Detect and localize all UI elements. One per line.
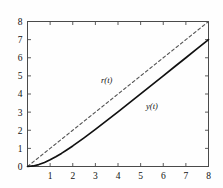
plot-svg: 012345678 12345678 r(t)y(t) bbox=[0, 0, 223, 188]
svg-text:7: 7 bbox=[184, 171, 189, 181]
svg-text:y(t): y(t) bbox=[145, 101, 158, 111]
svg-text:4: 4 bbox=[18, 89, 23, 99]
svg-text:6: 6 bbox=[161, 171, 166, 181]
svg-text:3: 3 bbox=[93, 171, 98, 181]
svg-text:2: 2 bbox=[70, 171, 75, 181]
svg-text:8: 8 bbox=[18, 17, 23, 27]
svg-text:5: 5 bbox=[138, 171, 143, 181]
svg-text:2: 2 bbox=[18, 126, 23, 136]
svg-text:8: 8 bbox=[206, 171, 211, 181]
chart-figure: 012345678 12345678 r(t)y(t) bbox=[0, 0, 223, 188]
svg-text:5: 5 bbox=[18, 71, 23, 81]
svg-text:4: 4 bbox=[116, 171, 121, 181]
svg-text:0: 0 bbox=[18, 162, 23, 172]
svg-text:r(t): r(t) bbox=[101, 75, 113, 85]
svg-text:7: 7 bbox=[18, 35, 23, 45]
svg-text:6: 6 bbox=[18, 53, 23, 63]
y-axis-tick-labels: 012345678 bbox=[18, 17, 23, 172]
figure-background bbox=[0, 0, 223, 188]
svg-text:1: 1 bbox=[48, 171, 53, 181]
svg-text:3: 3 bbox=[18, 108, 23, 118]
svg-text:1: 1 bbox=[18, 144, 23, 154]
